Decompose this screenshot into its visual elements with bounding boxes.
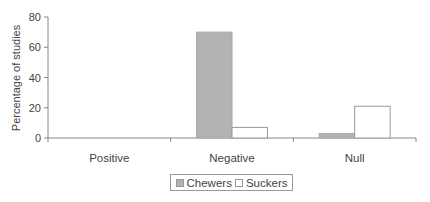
bar-suckers (355, 106, 391, 138)
bar-chewers (197, 32, 233, 138)
y-axis-label: Percentage of studies (10, 24, 22, 131)
legend-label-suckers: Suckers (246, 177, 288, 189)
y-tick-label: 80 (29, 11, 41, 23)
suckers-swatch-icon (235, 179, 243, 187)
x-category-label: Negative (209, 152, 254, 164)
legend-item-chewers: Chewers (176, 177, 232, 189)
legend: Chewers Suckers (170, 174, 293, 191)
legend-item-suckers: Suckers (235, 177, 288, 189)
bar-chart: 020406080 PositiveNegativeNull Percentag… (0, 0, 430, 202)
y-axis: 020406080 (29, 11, 48, 144)
bar-chewers (319, 133, 355, 138)
y-tick-label: 60 (29, 41, 41, 53)
x-axis: PositiveNegativeNull (48, 138, 416, 164)
x-category-label: Null (345, 152, 365, 164)
legend-label-chewers: Chewers (187, 177, 232, 189)
x-category-label: Positive (89, 152, 129, 164)
chewers-swatch-icon (176, 179, 184, 187)
bar-suckers (232, 127, 268, 138)
y-tick-label: 40 (29, 72, 41, 84)
y-tick-label: 20 (29, 102, 41, 114)
y-tick-label: 0 (35, 132, 41, 144)
bars (197, 32, 391, 138)
